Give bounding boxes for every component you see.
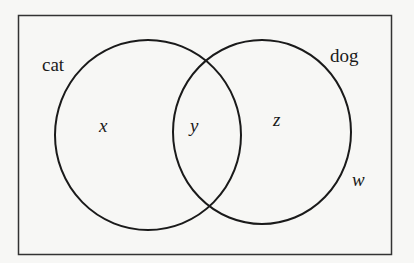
region-dog-only-label: z — [272, 109, 281, 130]
region-intersection-label: y — [188, 115, 199, 136]
region-outside-label: w — [352, 169, 365, 190]
dog-circle — [173, 40, 351, 224]
region-cat-only-label: x — [98, 115, 108, 136]
cat-circle — [55, 40, 241, 230]
cat-set-label: cat — [42, 54, 65, 75]
dog-set-label: dog — [330, 45, 359, 66]
venn-diagram: cat dog x y z w — [0, 0, 414, 263]
